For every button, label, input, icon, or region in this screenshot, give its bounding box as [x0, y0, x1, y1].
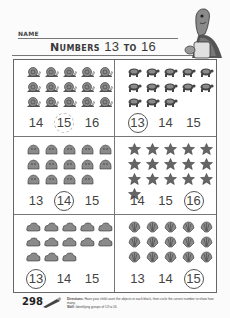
shell-icon [199, 251, 214, 263]
turtle-icon [163, 66, 178, 78]
answer-choice[interactable]: 15 [56, 115, 72, 130]
page-number: 298 [22, 296, 43, 307]
object-row [20, 236, 108, 248]
rock-icon [26, 173, 41, 185]
snail-icon [62, 96, 77, 108]
directions-body: Have your child count the objects in eac… [67, 297, 214, 305]
answer-choices: 14 15 16 [14, 115, 114, 130]
object-row [121, 173, 210, 185]
starfish-icon [127, 143, 142, 155]
turtle-icon [145, 66, 160, 78]
starfish-icon [127, 173, 142, 185]
answer-choice[interactable]: 14 [130, 193, 146, 208]
shell-icon [145, 236, 160, 248]
shell-icon [127, 236, 142, 248]
rock-icon [44, 158, 59, 170]
object-row [121, 221, 210, 233]
turtle-icon [145, 96, 160, 108]
starfish-icon [199, 143, 214, 155]
object-row [20, 96, 108, 108]
turtle-icon [127, 81, 142, 93]
snail-icon [44, 96, 59, 108]
title-number-13: 13 [104, 39, 119, 54]
cloud-icon [44, 236, 59, 248]
directions-text: Directions: Have your child count the ob… [67, 297, 217, 310]
answer-choice[interactable]: 15 [158, 193, 174, 208]
cloud-icon [62, 251, 77, 263]
snail-icon [80, 66, 95, 78]
object-row [20, 173, 108, 185]
answer-choices: 13 14 15 [14, 193, 114, 208]
rock-icon [98, 158, 113, 170]
cloud-icon [26, 251, 41, 263]
panel-snails: 14 15 16 [14, 60, 115, 137]
answer-choice[interactable]: 13 [28, 193, 44, 208]
starfish-icon [145, 143, 160, 155]
starfish-icon [127, 158, 142, 170]
object-row [20, 81, 108, 93]
object-row [121, 81, 210, 93]
pencil-icon [42, 296, 62, 308]
object-row [20, 221, 108, 233]
turtle-icon [199, 81, 214, 93]
shell-icon [145, 221, 160, 233]
turtle-icon [181, 66, 196, 78]
snail-icon [80, 81, 95, 93]
panel-turtles: 13 14 15 [115, 60, 216, 137]
starfish-icon [145, 158, 160, 170]
name-line[interactable]: NAME [18, 29, 178, 39]
shell-icon [163, 221, 178, 233]
starfish-icon [181, 143, 196, 155]
answer-choice[interactable]: 15 [84, 193, 100, 208]
answer-choices: 13 14 15 [14, 271, 114, 286]
snail-icon [80, 96, 95, 108]
snail-icon [26, 66, 41, 78]
object-row [121, 236, 210, 248]
rock-icon [62, 143, 77, 155]
answer-choice[interactable]: 16 [186, 193, 202, 208]
cloud-icon [26, 236, 41, 248]
object-row [121, 96, 210, 108]
answer-choice[interactable]: 16 [84, 115, 100, 130]
turtle-icon [181, 81, 196, 93]
shell-icon [181, 251, 196, 263]
turtle-icon [163, 81, 178, 93]
rock-icon [80, 158, 95, 170]
answer-choices: 13 14 15 [115, 271, 216, 286]
turtle-icon [163, 96, 178, 108]
answer-choice[interactable]: 14 [28, 115, 44, 130]
rock-icon [44, 173, 59, 185]
rock-icon [98, 143, 113, 155]
shell-icon [127, 221, 142, 233]
answer-choice[interactable]: 14 [56, 193, 72, 208]
counting-grid: 14 15 16 13 14 15 13 14 15 14 15 16 13 [13, 59, 217, 293]
snail-icon [98, 96, 113, 108]
object-row [20, 66, 108, 78]
snail-icon [26, 81, 41, 93]
answer-choice[interactable]: 15 [186, 115, 202, 130]
turtle-icon [127, 66, 142, 78]
object-group [20, 221, 108, 263]
page-footer: 298 Directions: Have your child count th… [0, 294, 230, 318]
object-row [121, 251, 210, 263]
page-title: Numbers 13 to 16 [50, 39, 156, 54]
shell-icon [145, 251, 160, 263]
starfish-icon [199, 158, 214, 170]
answer-choice[interactable]: 14 [56, 271, 72, 286]
answer-choice[interactable]: 13 [130, 271, 146, 286]
answer-choice[interactable]: 15 [186, 271, 202, 286]
rock-icon [62, 173, 77, 185]
object-group [121, 66, 210, 108]
cloud-icon [98, 221, 113, 233]
object-row [20, 158, 108, 170]
shell-icon [181, 236, 196, 248]
answer-choice[interactable]: 14 [158, 115, 174, 130]
cloud-icon [62, 236, 77, 248]
answer-choice[interactable]: 13 [130, 115, 146, 130]
answer-choice[interactable]: 15 [84, 271, 100, 286]
answer-choice[interactable]: 14 [158, 271, 174, 286]
snail-icon [62, 81, 77, 93]
title-word-to: to [124, 41, 137, 54]
snail-icon [44, 66, 59, 78]
answer-choice[interactable]: 13 [28, 271, 44, 286]
